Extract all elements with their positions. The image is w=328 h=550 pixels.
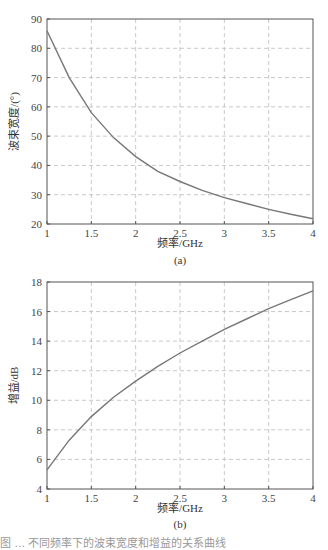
x-tick-label: 3 (222, 227, 228, 239)
y-tick-label: 40 (31, 159, 43, 171)
y-tick-label: 70 (31, 72, 43, 84)
x-tick-label: 3.5 (262, 227, 276, 239)
x-tick-label: 2 (133, 492, 139, 504)
y-tick-label: 6 (37, 453, 43, 465)
y-axis-label: 波束宽度/(°) (7, 92, 21, 151)
x-tick-label: 1 (44, 492, 50, 504)
x-tick-label: 1.5 (84, 227, 98, 239)
y-tick-label: 18 (31, 276, 43, 288)
y-axis-label: 增益/dB (7, 367, 20, 405)
y-tick-label: 50 (31, 130, 43, 142)
y-tick-label: 4 (37, 483, 43, 495)
y-tick-label: 14 (31, 335, 43, 347)
x-tick-label: 2 (133, 227, 139, 239)
x-tick-label: 1.5 (84, 492, 98, 504)
y-tick-label: 20 (31, 218, 43, 230)
panel-label: (b) (174, 518, 187, 531)
y-tick-label: 60 (31, 101, 43, 113)
figure-caption: 图 ... 不同频率下的波束宽度和增益的关系曲线 (0, 534, 328, 550)
y-tick-label: 90 (31, 13, 43, 25)
x-axis-label: 频率/GHz (157, 236, 203, 249)
y-tick-label: 16 (31, 306, 43, 318)
x-tick-label: 4 (310, 492, 316, 504)
y-tick-label: 80 (31, 42, 43, 54)
y-tick-label: 30 (31, 189, 43, 201)
x-axis-label: 频率/GHz (157, 501, 203, 514)
x-tick-label: 3.5 (262, 492, 276, 504)
panel-label: (a) (174, 254, 187, 267)
y-tick-label: 8 (37, 424, 43, 436)
x-tick-label: 4 (310, 227, 316, 239)
y-tick-label: 12 (31, 365, 42, 377)
x-tick-label: 1 (44, 227, 50, 239)
y-tick-label: 10 (31, 394, 43, 406)
x-tick-label: 3 (222, 492, 228, 504)
